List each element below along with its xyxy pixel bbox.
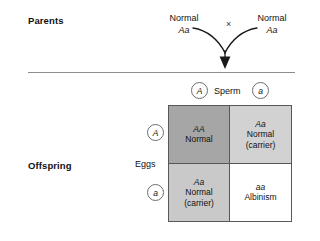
punnett-cell-Aa-top-note: (carrier) <box>246 140 276 151</box>
punnett-square: AA Normal Aa Normal (carrier) Aa Normal … <box>168 105 292 222</box>
punnett-cell-aa: aa Albinism <box>230 164 291 222</box>
punnett-cell-AA-genotype: AA <box>193 124 204 135</box>
punnett-cell-Aa-top-genotype: Aa <box>255 119 265 130</box>
sperm-allele-A: A <box>191 82 208 99</box>
offspring-row-label: Offspring <box>28 160 72 171</box>
egg-allele-a: a <box>147 184 164 201</box>
sperm-label: Sperm <box>214 86 241 96</box>
punnett-cell-Aa-top-phenotype: Normal <box>247 129 274 140</box>
sperm-allele-a: a <box>252 82 269 99</box>
section-divider <box>28 72 295 73</box>
mating-cross-arrow-icon <box>185 20 265 70</box>
punnett-cell-Aa-bottom: Aa Normal (carrier) <box>169 164 230 222</box>
punnett-cell-aa-phenotype: Albinism <box>244 192 276 203</box>
punnett-cell-AA-phenotype: Normal <box>185 134 212 145</box>
punnett-cell-AA: AA Normal <box>169 106 230 164</box>
punnett-cell-Aa-bottom-phenotype: Normal <box>185 187 212 198</box>
punnett-cell-Aa-bottom-genotype: Aa <box>194 177 204 188</box>
eggs-label: Eggs <box>135 159 156 169</box>
punnett-cell-aa-genotype: aa <box>256 182 265 193</box>
egg-allele-A: A <box>147 124 164 141</box>
parents-row-label: Parents <box>28 15 64 26</box>
punnett-cell-Aa-bottom-note: (carrier) <box>184 198 214 209</box>
punnett-cell-Aa-top: Aa Normal (carrier) <box>230 106 291 164</box>
